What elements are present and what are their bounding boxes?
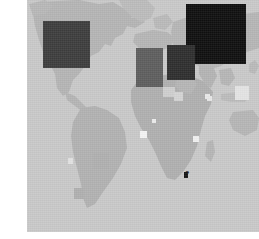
symbol-square-argentina [74,188,84,199]
symbol-square-brazil [93,153,109,169]
land-madagascar [205,140,215,162]
symbol-square-arabia [174,92,183,101]
land-southeast-asia [219,68,235,86]
symbol-square-sahel [152,119,156,123]
symbol-square-central-africa [193,136,199,142]
world-map-figure: ? [0,0,259,239]
symbol-square-europe [136,48,163,87]
symbol-square-colombia [68,158,73,164]
unknown-value-marker: ? [185,170,189,177]
land-scandinavia [153,14,173,30]
symbol-square-nigeria [140,131,147,138]
land-australia [229,110,259,136]
land-japan [249,60,259,74]
symbol-square-southeast-asia [207,96,212,101]
symbol-square-east-asia [186,4,246,64]
symbol-square-japan [235,86,249,100]
symbol-square-south-asia [167,45,195,80]
symbol-square-north-america [43,21,90,68]
map-panel: ? [27,0,259,232]
